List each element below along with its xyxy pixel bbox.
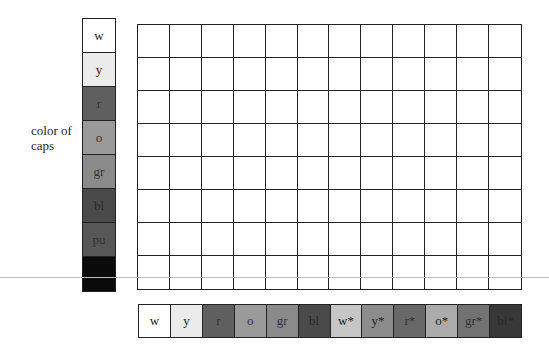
grid-cell [489, 157, 521, 190]
row-color-swatch: o [83, 121, 115, 155]
grid-cell [138, 124, 170, 157]
grid-cell [425, 58, 457, 91]
grid-cell [393, 91, 425, 124]
column-color-swatch: w* [331, 305, 363, 337]
column-color-swatch: bl [299, 305, 331, 337]
row-axis-label-line-2: caps [31, 138, 72, 153]
row-color-swatch: r [83, 87, 115, 121]
grid-cell [202, 25, 234, 58]
row-axis-label-line-1: color of [31, 123, 72, 138]
grid-cell [202, 157, 234, 190]
grid-cell [234, 124, 266, 157]
grid-cell [489, 58, 521, 91]
grid-cell [298, 190, 330, 223]
grid-cell [298, 124, 330, 157]
grid-cell [361, 223, 393, 256]
grid-cell [170, 223, 202, 256]
grid-cell [329, 157, 361, 190]
grid-cell [266, 223, 298, 256]
row-color-swatch: w [83, 19, 115, 53]
column-color-swatch: o* [426, 305, 458, 337]
grid-cell [361, 157, 393, 190]
grid-cell [234, 223, 266, 256]
grid-cell [329, 190, 361, 223]
grid-cell [266, 190, 298, 223]
grid-cell [361, 124, 393, 157]
grid-cell [266, 58, 298, 91]
grid-cell [489, 256, 521, 289]
empty-grid [137, 24, 522, 290]
column-color-swatch: o [235, 305, 267, 337]
grid-cell [425, 223, 457, 256]
grid-cell [170, 91, 202, 124]
grid-cell [329, 256, 361, 289]
grid-cell [425, 157, 457, 190]
grid-cell [489, 91, 521, 124]
grid-cell [425, 25, 457, 58]
grid-cell [234, 91, 266, 124]
grid-cell [457, 223, 489, 256]
row-color-swatch: pu [83, 223, 115, 257]
grid-cell [393, 256, 425, 289]
grid-cell [298, 157, 330, 190]
grid-cell [393, 25, 425, 58]
grid-cell [266, 256, 298, 289]
grid-cell [457, 91, 489, 124]
grid-cell [298, 91, 330, 124]
grid-cell [393, 124, 425, 157]
grid-cell [361, 25, 393, 58]
grid-cell [234, 58, 266, 91]
grid-cell [234, 190, 266, 223]
grid-cell [266, 157, 298, 190]
grid-cell [138, 256, 170, 289]
column-color-swatch: gr [267, 305, 299, 337]
grid-cell [170, 157, 202, 190]
grid-cell [138, 25, 170, 58]
column-color-swatch: bl* [490, 305, 521, 337]
grid-cell [138, 223, 170, 256]
grid-cell [234, 157, 266, 190]
grid-cell [457, 58, 489, 91]
row-color-legend: wyrogrblpu [82, 18, 116, 292]
grid-cell [393, 157, 425, 190]
grid-cell [266, 124, 298, 157]
grid-cell [489, 124, 521, 157]
grid-cell [266, 25, 298, 58]
column-color-legend: wyrogrblw*y*r*o*gr*bl* [138, 304, 522, 338]
column-color-swatch: r* [394, 305, 426, 337]
grid-cell [425, 256, 457, 289]
grid-cell [329, 223, 361, 256]
grid-cell [329, 91, 361, 124]
grid-cell [489, 190, 521, 223]
grid-cell [202, 223, 234, 256]
grid-cell [298, 25, 330, 58]
grid-cell [298, 58, 330, 91]
grid-cell [298, 223, 330, 256]
grid-cell [138, 190, 170, 223]
grid-cell [234, 256, 266, 289]
grid-cell [170, 256, 202, 289]
grid-cell [329, 25, 361, 58]
grid-cell [361, 190, 393, 223]
grid-cell [425, 124, 457, 157]
grid-cell [457, 256, 489, 289]
grid-cell [489, 25, 521, 58]
grid-cell [457, 25, 489, 58]
grid-cell [425, 190, 457, 223]
row-color-swatch: bl [83, 189, 115, 223]
grid-cell [457, 157, 489, 190]
grid-cell [266, 91, 298, 124]
row-color-swatch [83, 257, 115, 291]
grid-cell [393, 223, 425, 256]
row-axis-label: color of caps [31, 123, 72, 153]
grid-cell [202, 256, 234, 289]
grid-cell [202, 91, 234, 124]
grid-cell [457, 124, 489, 157]
row-color-swatch: gr [83, 155, 115, 189]
grid-cell [138, 157, 170, 190]
grid-cell [329, 124, 361, 157]
grid-cell [138, 91, 170, 124]
grid-cell [138, 58, 170, 91]
row-color-swatch: y [83, 53, 115, 87]
column-color-swatch: y* [362, 305, 394, 337]
